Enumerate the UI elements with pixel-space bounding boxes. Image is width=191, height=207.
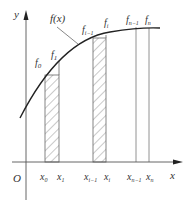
fn-label: fn (145, 14, 151, 26)
x1-label: x1 (56, 171, 64, 183)
y-axis-arrow-icon (24, 10, 29, 20)
curve-label: f(x) (50, 12, 66, 25)
f0-label: f0 (35, 57, 42, 70)
origin-label: O (13, 172, 21, 184)
strip-xi-1-xi (93, 35, 106, 162)
f1-label: f1 (51, 49, 57, 62)
strip-x0-x1 (45, 61, 59, 162)
fi-label: fi (104, 17, 109, 29)
xi-label: xi (103, 171, 110, 183)
curve-fx (20, 28, 160, 118)
fi-1-label: fi−1 (82, 24, 94, 36)
x-axis-arrow-icon (173, 160, 183, 165)
xi-1-label: xi−1 (83, 171, 97, 183)
fx-leader-line (57, 27, 78, 44)
y-axis-label: y (13, 8, 19, 20)
x0-label: x0 (39, 171, 47, 183)
xn-label: xn (145, 171, 153, 183)
fn-1-label: fn−1 (126, 14, 139, 26)
xn-1-label: xn−1 (126, 171, 142, 183)
riemann-sum-diagram: y x O f(x) f0 f1 fi−1 fi fn−1 fn x0 x1 x… (0, 0, 191, 207)
x-axis-label: x (169, 169, 175, 181)
